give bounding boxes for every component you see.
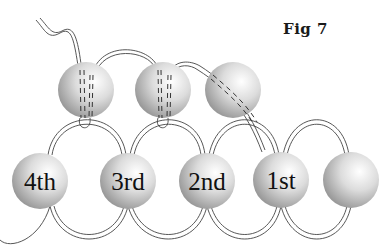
upper-thread-loops (48, 120, 349, 155)
top-bead (135, 62, 191, 118)
top-bead (58, 62, 114, 118)
bead-label-4th: 4th (24, 168, 56, 195)
top-bead (205, 62, 261, 118)
bead-label-3rd: 3rd (111, 168, 145, 195)
link-loops (79, 118, 168, 128)
lower-thread-loops (0, 206, 351, 244)
bead-label-2nd: 2nd (188, 168, 226, 195)
top-beads (58, 62, 261, 118)
bead-unlabeled (323, 152, 379, 208)
bead-label-1st: 1st (266, 167, 295, 194)
beading-diagram: 4th 3rd 2nd 1st (0, 0, 390, 251)
